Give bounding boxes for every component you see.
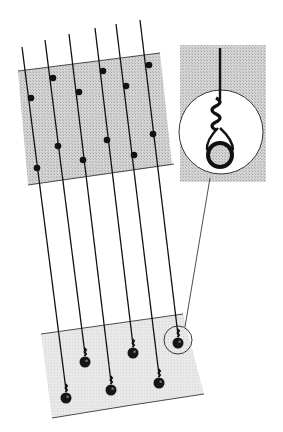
sinker-highlight <box>111 388 113 390</box>
sinker-highlight <box>133 351 135 353</box>
sinker-ball <box>80 357 91 368</box>
sinker-ball <box>154 378 165 389</box>
sinker-ball <box>173 338 184 349</box>
line-dot <box>28 95 35 102</box>
callout-connector <box>185 178 210 327</box>
line-dot <box>55 143 62 150</box>
line-dot <box>100 68 107 75</box>
upper-shaded-panel <box>18 53 172 185</box>
sinker-ball <box>106 385 117 396</box>
line-dot <box>150 131 157 138</box>
inset-sinker-ring <box>208 143 232 167</box>
line-dot <box>123 83 130 90</box>
sinker-highlight <box>85 360 87 362</box>
line-dot <box>146 62 153 69</box>
sinker-ball <box>128 348 139 359</box>
line-dot <box>34 165 41 172</box>
line-dot <box>104 137 111 144</box>
line-dot <box>50 75 57 82</box>
sinker-highlight <box>159 381 161 383</box>
sinker-highlight <box>178 341 180 343</box>
sinker-highlight <box>66 396 68 398</box>
line-dot <box>76 89 83 96</box>
line-dot <box>80 157 87 164</box>
fishing-line-diagram <box>0 0 283 432</box>
line-dot <box>131 152 138 159</box>
sinker-ball <box>61 393 72 404</box>
